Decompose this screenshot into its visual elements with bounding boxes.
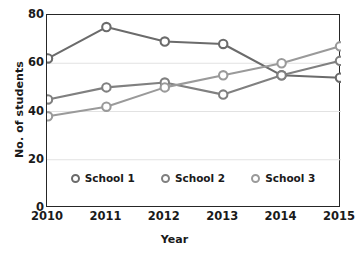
- x-tick-label: 2015: [316, 209, 359, 223]
- data-point-marker: [161, 83, 169, 91]
- series-line: [48, 61, 340, 100]
- y-tick-label: 20: [18, 152, 44, 166]
- data-point-marker: [219, 40, 227, 48]
- data-point-marker: [47, 54, 52, 62]
- data-point-marker: [102, 102, 110, 110]
- legend-marker-icon: [161, 174, 170, 183]
- legend-marker-icon: [251, 174, 260, 183]
- legend-item: School 2: [161, 172, 225, 184]
- x-tick-label: 2013: [199, 209, 245, 223]
- legend-label: School 3: [265, 172, 315, 184]
- chart-legend: School 1School 2School 3: [46, 168, 340, 188]
- x-tick-label: 2012: [141, 209, 187, 223]
- series-line: [48, 46, 340, 116]
- series-line: [48, 27, 340, 78]
- x-tick-label: 2011: [82, 209, 128, 223]
- y-tick-label: 60: [18, 55, 44, 69]
- data-point-marker: [219, 90, 227, 98]
- data-point-marker: [336, 57, 341, 65]
- legend-label: School 2: [175, 172, 225, 184]
- data-point-marker: [102, 83, 110, 91]
- data-point-marker: [161, 37, 169, 45]
- y-tick-label: 40: [18, 104, 44, 118]
- x-tick-label: 2014: [258, 209, 304, 223]
- x-tick-label: 2010: [24, 209, 70, 223]
- legend-marker-icon: [71, 174, 80, 183]
- legend-label: School 1: [85, 172, 135, 184]
- data-point-marker: [219, 71, 227, 79]
- data-point-marker: [277, 59, 285, 67]
- data-point-marker: [47, 95, 52, 103]
- y-tick-label: 80: [18, 7, 44, 21]
- legend-item: School 3: [251, 172, 315, 184]
- data-point-marker: [47, 112, 52, 120]
- x-axis-title: Year: [0, 233, 349, 246]
- data-point-marker: [277, 71, 285, 79]
- data-point-marker: [336, 42, 341, 50]
- data-point-marker: [336, 74, 341, 82]
- legend-item: School 1: [71, 172, 135, 184]
- data-point-marker: [102, 23, 110, 31]
